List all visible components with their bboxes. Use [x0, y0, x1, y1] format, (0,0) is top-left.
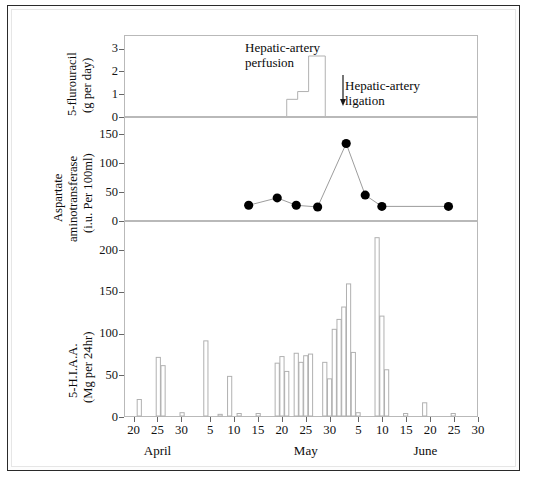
xtick-mark-20 [430, 417, 431, 422]
xtick-label: 25 [448, 423, 461, 438]
ytick-label-fluorouracil-1: 1 [76, 88, 118, 101]
ytick-label-fluorouracil-0: 0 [76, 111, 118, 124]
xtick-label: 5 [207, 423, 213, 438]
xtick-mark-25 [306, 417, 307, 422]
xtick-label: 30 [323, 423, 336, 438]
annotation-hepatic-artery-perfusion: Hepatic-artery perfusion [245, 40, 320, 71]
xtick-label: 25 [151, 423, 164, 438]
ytick-label-aspartate-aminotransferase-0: 0 [76, 215, 118, 228]
plot-stack [124, 35, 478, 417]
xtick-label: 10 [376, 423, 389, 438]
xtick-mark-25 [454, 417, 455, 422]
xtick-mark-10 [234, 417, 235, 422]
ytick-label-hiaa-100: 100 [76, 327, 118, 340]
xtick-mark-5 [210, 417, 211, 422]
panel-aspartate-aminotransferase [124, 117, 478, 221]
xtick-label: 25 [299, 423, 312, 438]
ytick-label-aspartate-aminotransferase-50: 50 [76, 186, 118, 199]
ytick-label-fluorouracil-3: 3 [76, 42, 118, 55]
xtick-label: 15 [252, 423, 265, 438]
xtick-label: 30 [472, 423, 485, 438]
annotation-hepatic-artery-ligation: Hepatic-artery ligation [345, 78, 420, 109]
xtick-mark-30 [478, 417, 479, 422]
month-label-april: April [144, 443, 171, 459]
xtick-label: 20 [127, 423, 140, 438]
xtick-mark-20 [282, 417, 283, 422]
yaxis-title-hiaa-units: (Mg per 24hr) [82, 332, 96, 403]
xtick-label: 15 [400, 423, 413, 438]
xtick-mark-30 [181, 417, 182, 422]
xtick-label: 20 [275, 423, 288, 438]
ast-line-plot [125, 118, 477, 220]
ytick-label-aspartate-aminotransferase-150: 150 [76, 128, 118, 141]
xtick-label: 5 [355, 423, 361, 438]
ytick-label-hiaa-0: 0 [76, 411, 118, 424]
xtick-mark-5 [358, 417, 359, 422]
hiaa-bar-plot [125, 222, 477, 416]
figure-root: 5-flurouracil (g per day) Aspartate amin… [0, 0, 535, 491]
xaxis: 2025305101520253051015202530AprilMayJune [124, 417, 478, 473]
ytick-label-aspartate-aminotransferase-100: 100 [76, 157, 118, 170]
month-label-june: June [413, 443, 437, 459]
xtick-mark-30 [330, 417, 331, 422]
panel-hiaa [124, 221, 478, 417]
xtick-label: 20 [424, 423, 437, 438]
ytick-label-hiaa-50: 50 [76, 369, 118, 382]
ytick-label-hiaa-150: 150 [76, 285, 118, 298]
xtick-mark-20 [134, 417, 135, 422]
yaxis-title-ast-line1: Aspartate [52, 174, 66, 222]
xtick-mark-15 [258, 417, 259, 422]
xtick-mark-15 [406, 417, 407, 422]
xtick-mark-25 [157, 417, 158, 422]
xtick-label: 10 [228, 423, 241, 438]
yaxis-title-fluorouracil-name: 5-flurouracil [66, 52, 80, 116]
month-label-may: May [294, 443, 318, 459]
xtick-label: 30 [175, 423, 188, 438]
ytick-label-fluorouracil-2: 2 [76, 65, 118, 78]
ytick-label-hiaa-200: 200 [76, 244, 118, 257]
xtick-mark-10 [382, 417, 383, 422]
